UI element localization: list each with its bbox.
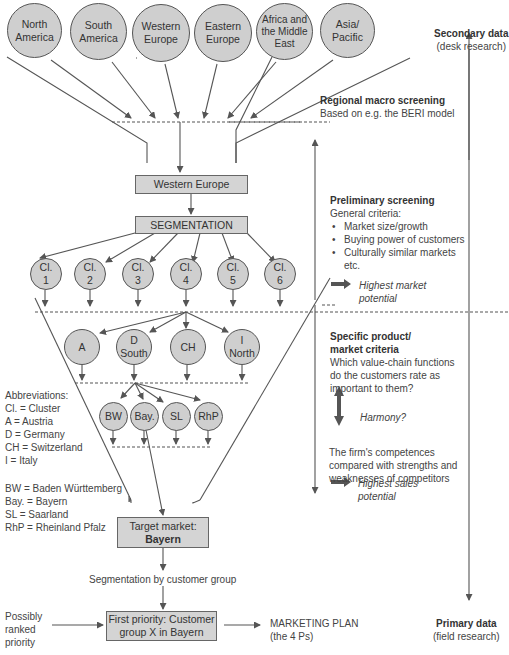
region-eastern-europe: Eastern Europe	[194, 4, 252, 62]
regional-screening-title: Regional macro screening	[320, 94, 455, 107]
region-north-america: North America	[7, 3, 62, 58]
abbreviations-title: Abbreviations:	[5, 389, 83, 402]
highest-sales-line2: potential	[358, 490, 418, 503]
specific-title-2: market criteria	[330, 343, 455, 356]
abbreviations-states: BW = Baden Württemberg Bay. = Bayern SL …	[5, 482, 122, 534]
state-sl: SL	[162, 402, 191, 431]
primary-data: Primary data (field research)	[433, 617, 500, 643]
possibly-line1: Possibly	[5, 610, 42, 623]
first-priority-line2: group X in Bayern	[119, 626, 203, 639]
region-asia-pacific: Asia/ Pacific	[320, 3, 375, 58]
cluster-1: Cl. 1	[30, 258, 62, 290]
region-south-america: South America	[70, 3, 127, 60]
marketing-plan-line2: (the 4 Ps)	[270, 630, 358, 643]
state-rhp: RhP	[194, 402, 223, 431]
state-bayern: Bay.	[130, 402, 159, 431]
secondary-data: Secondary data (desk research)	[434, 27, 508, 53]
criteria-item: Culturally similar markets	[330, 246, 465, 259]
segmentation-by-customer-group: Segmentation by customer group	[89, 573, 236, 586]
criteria-item: Market size/growth	[330, 220, 465, 233]
preliminary-screening-title: Preliminary screening	[330, 194, 465, 207]
first-priority-line1: First priority: Customer	[108, 613, 214, 626]
abbr-item: A = Austria	[5, 415, 83, 428]
regional-screening-sub: Based on e.g. the BERI model	[320, 107, 455, 120]
highest-market-line2: potential	[359, 292, 426, 305]
segmentation-box: SEGMENTATION	[135, 216, 248, 234]
region-western-europe: Western Europe	[132, 4, 190, 62]
cluster-6: Cl. 6	[264, 258, 296, 290]
country-italy-north: I North	[224, 329, 260, 365]
abbr-item: Cl. = Cluster	[5, 402, 83, 415]
specific-q-3: important to them?	[330, 382, 455, 395]
firm-line-2: compared with strengths and	[329, 459, 457, 472]
secondary-data-title: Secondary data	[434, 27, 508, 40]
abbr-item: BW = Baden Württemberg	[5, 482, 122, 495]
first-priority-box: First priority: Customer group X in Baye…	[106, 611, 217, 641]
preliminary-screening-sub: General criteria:	[330, 207, 465, 220]
highest-market-line1: Highest market	[359, 279, 426, 292]
cluster-4: Cl. 4	[170, 258, 202, 290]
possibly-line2: ranked	[5, 623, 42, 636]
harmony-label: Harmony?	[360, 411, 406, 424]
abbreviations: Abbreviations: Cl. = Cluster A = Austria…	[5, 389, 83, 467]
abbr-item: Bay. = Bayern	[5, 495, 122, 508]
country-switzerland: CH	[170, 329, 206, 365]
preliminary-criteria-list: Market size/growth Buying power of custo…	[330, 220, 465, 259]
cluster-2: Cl. 2	[74, 258, 106, 290]
cluster-3: Cl. 3	[122, 258, 154, 290]
abbr-item: D = Germany	[5, 428, 83, 441]
abbr-item: I = Italy	[5, 454, 83, 467]
abbr-item: RhP = Rheinland Pfalz	[5, 521, 122, 534]
specific-criteria: Specific product/ market criteria Which …	[330, 330, 455, 395]
specific-q-2: do the customers rate as	[330, 369, 455, 382]
state-bw: BW	[99, 402, 128, 431]
highest-sales-potential: Highest sales potential	[358, 477, 418, 503]
marketing-plan-line1: MARKETING PLAN	[270, 617, 358, 630]
criteria-etc: etc.	[330, 259, 465, 272]
preliminary-screening: Preliminary screening General criteria: …	[330, 194, 465, 272]
highest-market-potential: Highest market potential	[359, 279, 426, 305]
region-africa-middle-east: Africa and the Middle East	[256, 3, 313, 60]
firm-line-1: The firm's competences	[329, 446, 457, 459]
specific-q-1: Which value-chain functions	[330, 356, 455, 369]
target-market-box: Target market: Bayern	[117, 517, 209, 548]
highest-sales-line1: Highest sales	[358, 477, 418, 490]
abbr-item: SL = Saarland	[5, 508, 122, 521]
primary-data-title: Primary data	[433, 617, 500, 630]
country-germany-south: D South	[116, 329, 152, 365]
target-market-value: Bayern	[145, 533, 181, 546]
country-austria: A	[64, 329, 100, 365]
western-europe-box: Western Europe	[135, 175, 248, 194]
regional-screening: Regional macro screening Based on e.g. t…	[320, 94, 455, 120]
target-market-label: Target market:	[129, 520, 196, 533]
abbr-item: CH = Switzerland	[5, 441, 83, 454]
possibly-line3: priority	[5, 636, 42, 649]
secondary-data-sub: (desk research)	[434, 40, 508, 53]
specific-title-1: Specific product/	[330, 330, 455, 343]
possibly-ranked-priority: Possibly ranked priority	[5, 610, 42, 649]
cluster-5: Cl. 5	[217, 258, 249, 290]
criteria-item: Buying power of customers	[330, 233, 465, 246]
primary-data-sub: (field research)	[433, 630, 500, 643]
marketing-plan: MARKETING PLAN (the 4 Ps)	[270, 617, 358, 643]
